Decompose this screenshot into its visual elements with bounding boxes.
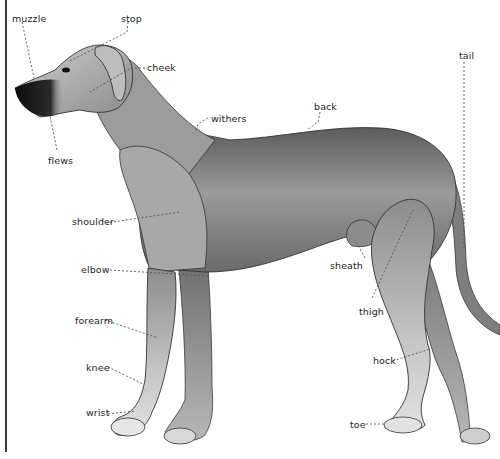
nose-shape	[15, 79, 63, 116]
hind-paw-near	[384, 417, 422, 433]
label-stop: stop	[121, 13, 142, 24]
label-back: back	[314, 101, 337, 112]
label-toe: toe	[350, 419, 366, 430]
label-muzzle: muzzle	[12, 13, 46, 24]
dog-illustration	[0, 0, 500, 459]
label-elbow: elbow	[81, 264, 110, 275]
label-sheath: sheath	[330, 260, 363, 271]
label-forearm: forearm	[75, 315, 113, 326]
label-wrist: wrist	[86, 407, 110, 418]
label-cheek: cheek	[147, 62, 176, 73]
label-thigh: thigh	[359, 306, 384, 317]
label-tail: tail	[459, 50, 474, 61]
front-paw-near	[111, 418, 145, 436]
label-shoulder: shoulder	[72, 216, 114, 227]
front-paw-far	[164, 428, 196, 444]
near-front-leg	[112, 268, 176, 435]
label-hock: hock	[373, 355, 396, 366]
eye-shape	[62, 68, 70, 73]
label-knee: knee	[86, 362, 110, 373]
label-flews: flews	[48, 155, 73, 166]
hind-paw-far	[460, 428, 490, 444]
label-withers: withers	[211, 113, 247, 124]
